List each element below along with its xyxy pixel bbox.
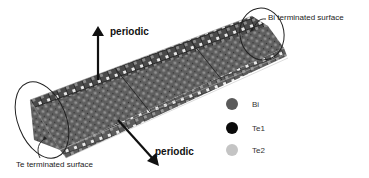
legend-label-te2: Te2 (252, 146, 265, 155)
periodic-bottom-label: periodic (155, 146, 194, 157)
periodic-top-label: periodic (110, 26, 149, 37)
periodic-arrow-down (118, 120, 159, 166)
bi-surface-label: Bi terminated surface (268, 13, 344, 22)
legend-label-bi: Bi (252, 100, 259, 109)
legend-item-te1: Te1 (226, 121, 265, 135)
bi-atom-icon (226, 98, 238, 110)
legend-item-bi: Bi (226, 97, 259, 111)
periodic-arrow-up (92, 26, 104, 80)
legend-item-te2: Te2 (226, 143, 265, 157)
te1-atom-icon (226, 122, 238, 134)
te2-atom-icon (226, 144, 238, 156)
crystal-slab-figure: periodic periodic Bi terminated surface … (0, 0, 369, 178)
legend-label-te1: Te1 (252, 124, 265, 133)
te-surface-label: Te terminated surface (16, 160, 93, 169)
